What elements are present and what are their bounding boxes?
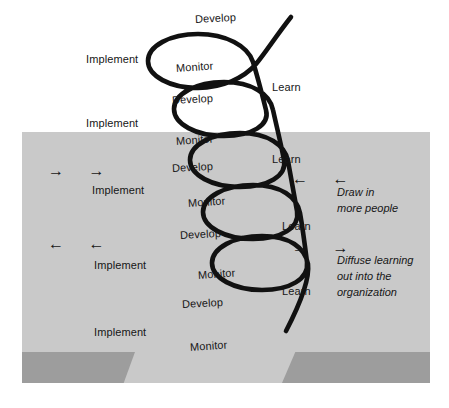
note-draw-in-more-people: Draw in more people (337, 185, 398, 217)
label-develop-3: Develop (172, 159, 214, 176)
label-monitor-4: Monitor (197, 265, 235, 282)
label-implement-4: Implement (94, 258, 146, 273)
label-implement-2: Implement (86, 116, 138, 131)
diagram-canvas: Develop Implement Monitor Learn Develop … (0, 0, 449, 408)
note-diffuse-learning: Diffuse learning out into the organizati… (337, 253, 413, 301)
label-learn-2: Learn (272, 152, 301, 167)
label-develop-2: Develop (172, 91, 214, 108)
label-implement-3: Implement (92, 183, 144, 198)
label-learn-3: Learn (282, 219, 311, 234)
label-learn-4: Learn (282, 284, 311, 299)
arrows-left-outward: ← ← (48, 236, 114, 252)
label-develop-1: Develop (195, 10, 237, 27)
label-monitor-5: Monitor (189, 337, 227, 354)
label-monitor-2: Monitor (175, 131, 213, 148)
label-develop-5: Develop (182, 295, 224, 312)
label-implement-5: Implement (94, 325, 146, 340)
label-implement-1: Implement (86, 52, 138, 67)
label-monitor-1: Monitor (175, 58, 213, 75)
label-learn-1: Learn (272, 80, 301, 95)
arrows-left-inward: → → (48, 163, 114, 179)
label-develop-4: Develop (180, 226, 222, 243)
label-monitor-3: Monitor (187, 193, 225, 210)
